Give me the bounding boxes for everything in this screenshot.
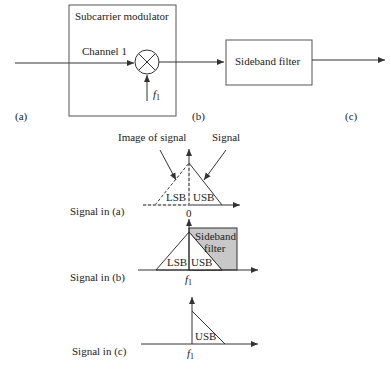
sideband-filter-title: Sideband filter (235, 56, 300, 67)
image-of-signal-label: Image of signal (118, 132, 186, 143)
spectrum-a (143, 149, 240, 205)
image-pointer (160, 150, 176, 180)
signal-in-c-label: Signal in (c) (72, 346, 126, 357)
point-a-label: (a) (15, 111, 27, 122)
filter-label-line1: Sideband (195, 231, 236, 242)
carrier-freq-label: f1 (153, 89, 160, 102)
mixer-icon (135, 50, 159, 74)
modulator-title: Subcarrier modulator (75, 11, 169, 22)
point-c-label: (c) (345, 111, 357, 122)
point-b-label: (b) (192, 111, 205, 122)
f1-label-b: f1 (185, 274, 192, 287)
signal-label: Signal (212, 132, 240, 143)
usb-label-b: USB (191, 257, 212, 268)
usb-label-a: USB (193, 192, 214, 203)
channel-1-label: Channel 1 (82, 46, 127, 57)
signal-in-b-label: Signal in (b) (70, 272, 125, 283)
filter-label-line2: filter (204, 243, 225, 254)
lsb-label-b: LSB (167, 257, 187, 268)
signal-in-a-label: Signal in (a) (70, 206, 124, 217)
usb-label-c: USB (195, 331, 216, 342)
block-diagram (15, 5, 385, 116)
signal-pointer (204, 150, 226, 180)
origin-zero-label: 0 (186, 208, 192, 219)
lsb-label-a: LSB (166, 192, 186, 203)
diagram-canvas (0, 0, 391, 377)
f1-label-c: f1 (187, 348, 194, 361)
